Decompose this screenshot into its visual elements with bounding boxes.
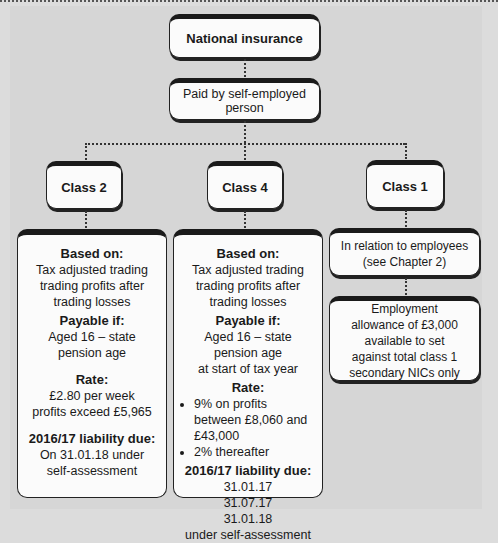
- class1-relation-box: In relation to employees (see Chapter 2): [329, 228, 480, 276]
- top-dotted-rule: [0, 0, 498, 4]
- class2-based-on-heading: Based on:: [24, 246, 160, 262]
- class2-liability-heading: 2016/17 liability due:: [24, 431, 160, 447]
- class2-payable-line: pension age: [24, 345, 160, 361]
- connector-class1-relation: [405, 210, 407, 227]
- connector-payer-branch: [244, 121, 246, 143]
- class4-liability-line: 31.01.17: [180, 479, 316, 495]
- class2-based-on-line: trading profits after: [24, 278, 160, 294]
- connector-class4: [244, 143, 246, 160]
- class2-label: Class 2: [61, 180, 107, 195]
- class4-liability-line: under self-assessment: [180, 527, 316, 543]
- connector-class2: [85, 143, 87, 160]
- class2-box: Class 2: [46, 161, 122, 209]
- connector-class4-detail: [244, 211, 246, 228]
- class4-based-on-line: Tax adjusted trading: [180, 262, 316, 278]
- class1-box: Class 1: [366, 160, 444, 208]
- class4-label: Class 4: [222, 180, 268, 195]
- class2-rate-line: £2.80 per week: [24, 388, 160, 404]
- class4-based-on-heading: Based on:: [180, 246, 316, 262]
- class4-rate-bullet: 2% thereafter: [194, 444, 316, 460]
- connector-class1: [405, 143, 407, 159]
- class2-rate-heading: Rate:: [24, 372, 160, 388]
- class2-detail-box: Based on: Tax adjusted trading trading p…: [17, 229, 167, 498]
- connector-relation-allowance: [405, 278, 407, 295]
- class2-based-on-line: trading losses: [24, 294, 160, 310]
- class2-rate-line: profits exceed £5,965: [24, 404, 160, 420]
- class4-liability-heading: 2016/17 liability due:: [180, 463, 316, 479]
- connector-class2-detail: [85, 211, 87, 228]
- class2-payable-line: Aged 16 – state: [24, 329, 160, 345]
- class1-label: Class 1: [382, 179, 428, 194]
- class4-payable-line: at start of tax year: [180, 361, 316, 377]
- class1-relation-text: In relation to employees (see Chapter 2): [338, 238, 471, 270]
- class4-rate-heading: Rate:: [180, 380, 316, 396]
- national-insurance-label: National insurance: [186, 31, 302, 46]
- employment-allowance-text: Employment allowance of £3,000 available…: [344, 301, 465, 381]
- class2-payable-heading: Payable if:: [24, 313, 160, 329]
- class4-box: Class 4: [207, 161, 283, 209]
- employment-allowance-box: Employment allowance of £3,000 available…: [329, 296, 480, 381]
- class4-payable-heading: Payable if:: [180, 313, 316, 329]
- class2-liability-line: self-assessment: [24, 463, 160, 479]
- class4-based-on-line: trading losses: [180, 294, 316, 310]
- class4-payable-line: pension age: [180, 345, 316, 361]
- class4-payable-line: Aged 16 – state: [180, 329, 316, 345]
- class4-liability-line: 31.07.17: [180, 495, 316, 511]
- payer-box: Paid by self-employed person: [169, 78, 320, 120]
- national-insurance-box: National insurance: [169, 14, 320, 58]
- connector-root-payer: [244, 59, 246, 77]
- class4-detail-box: Based on: Tax adjusted trading trading p…: [173, 229, 323, 498]
- payer-label: Paid by self-employed person: [170, 87, 319, 115]
- class4-rate-bullet: 9% on profits between £8,060 and £43,000: [194, 396, 316, 444]
- class4-based-on-line: trading profits after: [180, 278, 316, 294]
- class2-based-on-line: Tax adjusted trading: [24, 262, 160, 278]
- class4-rate-list: 9% on profits between £8,060 and £43,000…: [180, 396, 316, 460]
- class2-liability-line: On 31.01.18 under: [24, 447, 160, 463]
- class4-liability-line: 31.01.18: [180, 511, 316, 527]
